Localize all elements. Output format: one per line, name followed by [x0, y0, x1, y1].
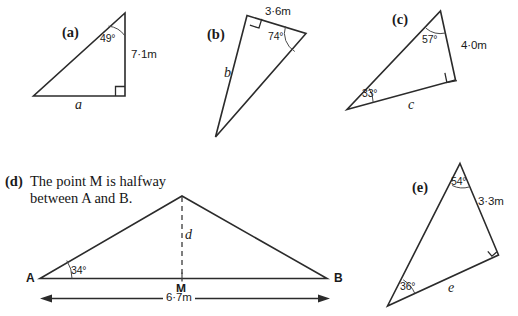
triangle-e-bottom-angle-label: 36°	[400, 281, 415, 292]
dimension-arrow-right-icon	[318, 294, 330, 302]
triangle-b-side-measure: 3·6m	[265, 6, 291, 18]
triangle-a-outline	[34, 13, 126, 96]
triangle-a-right-angle-marker	[116, 87, 126, 97]
triangle-d-base-measure: 6·7m	[163, 292, 195, 304]
triangle-c-top-angle-label: 57°	[422, 34, 437, 45]
triangle-c-left-angle-label: 33°	[362, 88, 377, 99]
worksheet-figure-page: (a) 49° 7·1m a (b) 3·6m 74° b (c) 57° 4·…	[0, 0, 518, 316]
part-label-d: (d)	[5, 174, 23, 189]
triangle-c-side-measure: 4·0m	[461, 40, 487, 52]
part-d-prompt-line-2: between A and B.	[30, 190, 132, 208]
part-label-c: (c)	[392, 12, 408, 27]
triangle-e-top-angle-label: 54°	[451, 176, 466, 187]
dimension-arrow-left-icon	[40, 294, 52, 302]
triangle-b-angle-label: 74°	[268, 31, 283, 42]
vertex-label-a: A	[26, 272, 35, 284]
triangle-e-side-measure: 3·3m	[478, 196, 504, 208]
triangle-d-height-variable: d	[185, 228, 192, 242]
part-d-prompt-line-1: The point M is halfway	[30, 173, 166, 191]
part-label-e: (e)	[412, 180, 428, 195]
triangle-e-right-angle-marker	[488, 251, 497, 256]
triangle-a-side-variable: a	[75, 98, 82, 112]
part-label-b: (b)	[207, 27, 225, 42]
vertex-label-b: B	[334, 272, 343, 284]
triangle-a-side-measure: 7·1m	[131, 49, 157, 61]
triangle-d-angle-label: 34°	[71, 265, 86, 276]
triangle-a-group	[34, 13, 126, 96]
part-label-a: (a)	[62, 25, 79, 40]
triangle-e-side-variable: e	[448, 281, 454, 295]
triangle-c-side-variable: c	[408, 98, 414, 112]
triangle-a-angle-label: 49°	[100, 33, 115, 44]
triangle-b-side-variable: b	[224, 66, 231, 80]
